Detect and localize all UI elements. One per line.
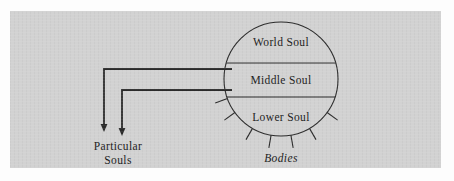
label-world-soul: World Soul — [253, 36, 309, 48]
connector-paths-group — [101, 69, 232, 136]
arrow-head-middle-to-particular-lower — [119, 128, 126, 136]
body-ray — [291, 135, 293, 148]
connector-elbow-middle-to-particular-lower — [122, 90, 232, 129]
connector-elbow-middle-to-particular-upper — [104, 69, 232, 125]
body-ray — [215, 98, 227, 102]
label-particular-souls-line1: Particular — [94, 140, 143, 152]
label-bodies: Bodies — [264, 152, 298, 164]
body-ray — [269, 135, 271, 148]
label-middle-soul: Middle Soul — [250, 74, 311, 86]
figure-page: World Soul Middle Soul Lower Soul Bodies… — [0, 0, 454, 181]
label-particular-souls-line2: Souls — [104, 154, 132, 166]
body-rays-group — [215, 98, 337, 147]
label-lower-soul: Lower Soul — [252, 111, 309, 123]
body-ray — [224, 113, 235, 121]
soul-hierarchy-diagram: World Soul Middle Soul Lower Soul Bodies… — [0, 0, 454, 181]
arrow-head-middle-to-particular-upper — [101, 124, 108, 132]
body-ray — [327, 113, 338, 121]
body-ray — [310, 128, 317, 139]
body-ray — [246, 128, 253, 139]
